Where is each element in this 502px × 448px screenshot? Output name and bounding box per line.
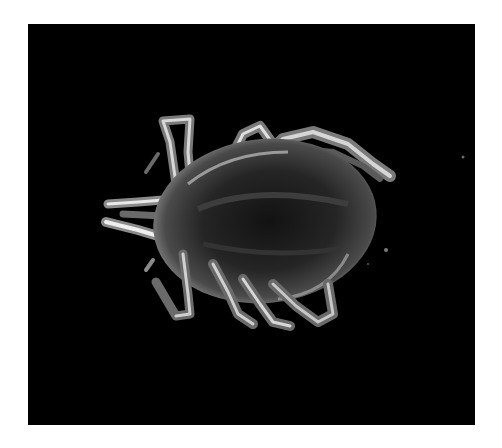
dust-speck [384,248,388,252]
dust-speck [367,263,369,265]
tick-photo [28,24,475,425]
dust-speck [462,156,465,159]
tick-illustration [28,24,475,425]
tick-body [145,128,385,315]
